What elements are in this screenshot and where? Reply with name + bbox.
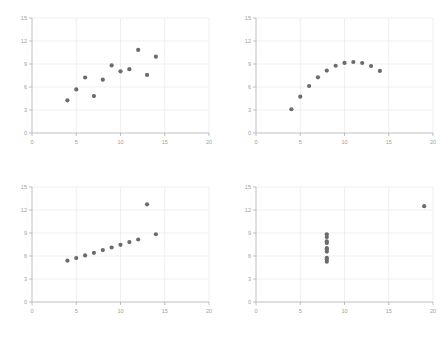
data-point (65, 98, 69, 102)
scatter-panel-4: 0510152003691215 (224, 169, 448, 338)
data-point (101, 78, 105, 82)
y-tick-label: 9 (24, 61, 27, 67)
data-point (325, 247, 329, 251)
y-tick-label: 12 (21, 38, 27, 44)
y-tick-label: 6 (24, 253, 27, 259)
data-point (65, 259, 69, 263)
x-tick-label: 5 (75, 308, 78, 314)
x-tick-label: 10 (117, 308, 123, 314)
y-tick-label: 15 (245, 15, 251, 21)
data-point (83, 253, 87, 257)
y-tick-label: 6 (248, 253, 251, 259)
scatter-panel-1: 0510152003691215 (0, 0, 224, 169)
data-point (110, 63, 114, 67)
x-tick-label: 15 (386, 139, 392, 145)
data-point (127, 240, 131, 244)
y-tick-label: 3 (248, 107, 251, 113)
data-point (351, 60, 355, 64)
y-tick-label: 0 (248, 130, 251, 136)
y-tick-label: 3 (24, 276, 27, 282)
data-point (325, 239, 329, 243)
data-point (92, 251, 96, 255)
data-point (422, 204, 426, 208)
data-point (369, 64, 373, 68)
data-point (325, 257, 329, 261)
y-tick-label: 3 (248, 276, 251, 282)
data-point (74, 87, 78, 91)
x-tick-label: 15 (162, 308, 168, 314)
anscombe-quartet-figure: 0510152003691215 0510152003691215 051015… (0, 0, 448, 338)
x-tick-label: 5 (299, 139, 302, 145)
x-tick-label: 10 (341, 308, 347, 314)
y-tick-label: 15 (21, 15, 27, 21)
data-point (298, 95, 302, 99)
data-point (154, 232, 158, 236)
data-point (92, 94, 96, 98)
x-tick-label: 0 (30, 308, 33, 314)
data-point (83, 75, 87, 79)
data-point (127, 67, 131, 71)
scatter-panel-2: 0510152003691215 (224, 0, 448, 169)
y-tick-label: 9 (248, 230, 251, 236)
y-tick-label: 12 (245, 38, 251, 44)
y-tick-label: 0 (248, 299, 251, 305)
scatter-plot-4: 0510152003691215 (224, 169, 448, 338)
scatter-plot-3: 0510152003691215 (0, 169, 224, 338)
x-tick-label: 15 (162, 139, 168, 145)
data-point (316, 75, 320, 79)
scatter-plot-1: 0510152003691215 (0, 0, 224, 169)
y-tick-label: 0 (24, 299, 27, 305)
x-tick-label: 0 (30, 139, 33, 145)
y-tick-label: 12 (245, 207, 251, 213)
data-point (74, 256, 78, 260)
data-point (118, 243, 122, 247)
data-point (334, 64, 338, 68)
y-tick-label: 6 (24, 84, 27, 90)
y-tick-label: 3 (24, 107, 27, 113)
y-tick-label: 12 (21, 207, 27, 213)
y-tick-label: 0 (24, 130, 27, 136)
x-tick-label: 15 (386, 308, 392, 314)
data-point (154, 55, 158, 59)
y-tick-label: 15 (21, 184, 27, 190)
data-point (110, 245, 114, 249)
data-point (307, 84, 311, 88)
x-tick-label: 10 (117, 139, 123, 145)
x-tick-label: 0 (254, 139, 257, 145)
y-tick-label: 6 (248, 84, 251, 90)
data-point (101, 248, 105, 252)
data-point (136, 237, 140, 241)
x-tick-label: 10 (341, 139, 347, 145)
data-point (378, 69, 382, 73)
scatter-panel-3: 0510152003691215 (0, 169, 224, 338)
data-point (360, 61, 364, 65)
y-tick-label: 15 (245, 184, 251, 190)
x-tick-label: 20 (206, 139, 212, 145)
data-point (325, 68, 329, 72)
x-tick-label: 5 (299, 308, 302, 314)
data-point (118, 69, 122, 73)
x-tick-label: 0 (254, 308, 257, 314)
y-tick-label: 9 (24, 230, 27, 236)
data-point (289, 107, 293, 111)
data-point (136, 48, 140, 52)
x-tick-label: 20 (430, 139, 436, 145)
data-point (342, 61, 346, 65)
x-tick-label: 20 (430, 308, 436, 314)
data-point (145, 202, 149, 206)
x-tick-label: 5 (75, 139, 78, 145)
y-tick-label: 9 (248, 61, 251, 67)
data-point (325, 235, 329, 239)
scatter-plot-2: 0510152003691215 (224, 0, 448, 169)
x-tick-label: 20 (206, 308, 212, 314)
data-point (145, 73, 149, 77)
